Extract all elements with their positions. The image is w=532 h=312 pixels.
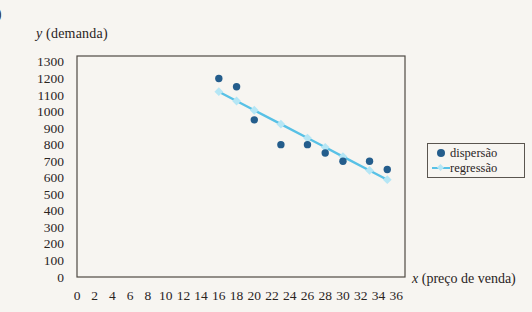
y-tick-label: 1200 (37, 71, 64, 86)
y-tick-label: 400 (44, 203, 65, 218)
y-tick-label: 700 (44, 154, 65, 169)
x-tick-label: 14 (194, 288, 208, 303)
x-tick-label: 12 (177, 288, 191, 303)
x-tick-label: 2 (91, 288, 98, 303)
regression-marker (214, 87, 223, 96)
x-tick-label: 6 (127, 288, 134, 303)
regression-marker (277, 120, 286, 129)
scatter-point (251, 116, 258, 123)
x-tick-label: 20 (248, 288, 262, 303)
regression-line-icon (432, 167, 450, 170)
x-tick-label: 26 (301, 288, 315, 303)
x-tick-label: 22 (265, 288, 279, 303)
scatter-point (384, 166, 391, 173)
scatter-point (304, 141, 311, 148)
x-tick-label: 34 (372, 288, 386, 303)
regression-marker (232, 97, 241, 106)
chart-legend: dispersão regressão (427, 143, 525, 178)
legend-entry-regressao: regressão (431, 161, 520, 175)
scatter-point (366, 158, 373, 165)
x-axis-title: x (preço de venda) (412, 271, 516, 287)
y-tick-label: 1000 (37, 104, 64, 119)
y-tick-label: 600 (44, 170, 65, 185)
y-tick-label: 200 (44, 236, 65, 251)
x-tick-label: 36 (389, 288, 403, 303)
regression-marker (250, 106, 259, 115)
legend-label: dispersão (450, 146, 497, 160)
x-tick-label: 10 (159, 288, 173, 303)
scatter-point (233, 83, 240, 90)
x-tick-label: 8 (145, 288, 152, 303)
x-tick-label: 24 (283, 288, 297, 303)
x-axis-title-text: (preço de venda) (418, 271, 516, 286)
x-tick-label: 28 (318, 288, 332, 303)
regression-marker (365, 166, 374, 175)
y-tick-label: 100 (44, 253, 65, 268)
y-tick-label: 500 (44, 187, 65, 202)
legend-marker-col (431, 167, 450, 170)
y-tick-label: 0 (57, 270, 64, 285)
y-tick-label: 1100 (38, 88, 65, 103)
regression-marker (383, 175, 392, 184)
scatter-dot-icon (437, 149, 445, 157)
legend-entry-dispersao: dispersão (431, 146, 520, 160)
regression-line (219, 92, 387, 180)
x-tick-label: 0 (74, 288, 81, 303)
legend-marker-col (431, 149, 450, 157)
x-tick-label: 4 (109, 288, 116, 303)
y-tick-label: 300 (44, 220, 65, 235)
scatter-point (322, 149, 329, 156)
scatter-point (215, 75, 222, 82)
x-tick-label: 32 (354, 288, 368, 303)
plot-frame (77, 56, 405, 277)
legend-label: regressão (450, 161, 497, 175)
y-tick-label: 1300 (37, 54, 64, 69)
x-tick-label: 16 (212, 288, 226, 303)
y-tick-label: 800 (44, 137, 65, 152)
x-tick-label: 30 (336, 288, 350, 303)
x-tick-label: 18 (230, 288, 244, 303)
scatter-point (339, 158, 346, 165)
y-tick-label: 900 (44, 121, 65, 136)
scatter-point (277, 141, 284, 148)
